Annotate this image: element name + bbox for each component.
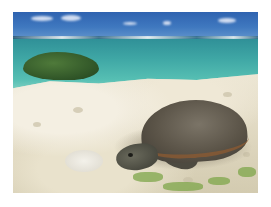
reef-horizon (13, 36, 258, 39)
cloud (123, 22, 137, 25)
turtle-eye (128, 153, 133, 157)
grass (163, 182, 203, 191)
grass (133, 172, 163, 182)
cloud (61, 15, 81, 21)
cloud (218, 18, 236, 23)
pebble (33, 122, 41, 127)
pebble (223, 92, 232, 97)
beach-turtle-photo (13, 12, 258, 193)
cloud (31, 16, 53, 21)
grass (208, 177, 230, 185)
pebble (73, 107, 83, 113)
white-rock (65, 150, 103, 172)
grass (238, 167, 256, 177)
cloud (163, 21, 171, 25)
